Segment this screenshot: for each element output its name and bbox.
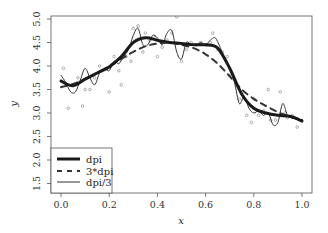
scatter-point [245,114,248,117]
y-axis-label: y [8,101,19,108]
legend-label-3dpi: 3*dpi [86,166,113,177]
scatter-point [84,88,87,91]
legend: dpi 3*dpi dpi/3 [51,148,113,193]
y-tick-label: 1.5 [31,176,42,191]
series-lines [61,28,302,126]
y-tick-label: 2.0 [31,152,42,167]
y-tick-label: 5.0 [31,11,42,26]
x-tick-label: 0.2 [102,199,117,210]
y-tick-label: 3.0 [31,105,42,120]
x-axis-label: x [178,215,184,226]
scatter-point [137,25,140,28]
scatter-point [132,27,135,30]
y-axis: 1.52.02.53.03.54.04.55.0 [31,11,51,191]
scatter-point [93,76,96,79]
scatter-point [62,67,65,70]
legend-label-dpi3: dpi/3 [86,177,112,188]
scatter-point [267,88,270,91]
scatter-point [161,46,164,49]
scatter-point [130,60,133,63]
scatter-point [108,91,111,94]
x-axis: 0.00.20.40.60.81.0 [53,193,309,210]
scatter-point [120,84,123,87]
series-line-3dpi [61,42,302,120]
y-tick-label: 4.5 [31,35,42,50]
x-tick-label: 1.0 [294,199,309,210]
x-tick-label: 0.6 [198,199,213,210]
y-tick-label: 4.0 [31,58,42,73]
x-tick-label: 0.4 [150,199,165,210]
scatter-point [144,32,147,35]
legend-label-dpi: dpi [86,154,102,165]
scatter-point [113,55,116,58]
scatter-point [296,126,299,129]
scatter-point [250,121,253,124]
scatter-point [142,51,145,54]
scatter-point [118,69,121,72]
y-tick-label: 2.5 [31,129,42,144]
y-tick-label: 3.5 [31,82,42,97]
chart: 0.00.20.40.60.81.0 1.52.02.53.03.54.04.5… [0,0,328,233]
scatter-point [226,55,229,58]
scatter-point [156,55,159,58]
scatter-point [81,105,84,108]
scatter-point [89,88,92,91]
scatter-point [257,114,260,117]
scatter-point [98,65,101,68]
x-tick-label: 0.0 [53,199,68,210]
scatter-point [274,119,277,122]
scatter-point [212,32,215,35]
scatter-point [185,48,188,51]
scatter-point [77,76,80,79]
scatter-point [279,91,282,94]
x-tick-label: 0.8 [246,199,261,210]
scatter-point [67,107,70,110]
scatter-point [180,60,183,63]
